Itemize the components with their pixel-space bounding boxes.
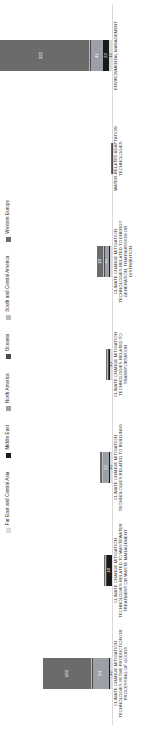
category-label: CLIMATE CHANGE MITIGATION TECHNOLOGIES R… (114, 213, 134, 310)
bar-segment[interactable]: 4 (91, 658, 92, 689)
rotated-canvas: Far East and Central AsiaMiddle EastNort… (0, 0, 159, 733)
bar-segment[interactable]: 3 (108, 349, 109, 380)
bar-value-label: 22 (104, 53, 108, 58)
legend-item[interactable]: South and Central America (6, 256, 11, 320)
category-label: CLIMATE CHANGE MITIGATION TECHNOLOGIES R… (114, 522, 129, 619)
category-axis: CLIMATE CHANGE MITIGATION TECHNOLOGIES I… (113, 4, 159, 725)
bar-segment[interactable]: 54 (93, 658, 109, 689)
legend-item-label: Western Europe (6, 200, 11, 234)
bar-segment[interactable]: 16 (104, 246, 109, 277)
bar-segment[interactable]: 18 (97, 246, 102, 277)
legend-item-label: Far East and Central Asia (6, 472, 11, 526)
bar-segment[interactable]: 18 (107, 555, 112, 586)
bar-segment[interactable]: 3 (90, 40, 91, 71)
bar-value-label: 22 (104, 465, 108, 470)
bar-value-label: 16 (104, 259, 108, 264)
bar-segment[interactable]: 322 (0, 40, 89, 71)
bar-segment[interactable]: 4 (106, 349, 107, 380)
bar-segment[interactable]: 7 (100, 452, 102, 483)
bar-segment[interactable]: 2 (92, 658, 93, 689)
legend-item-label: South and Central America (6, 256, 11, 312)
bar-segment[interactable]: 4 (109, 246, 110, 277)
category-label: CLIMATE CHANGE MITIGATION TECHNOLOGIES I… (114, 625, 129, 722)
bar-segment[interactable]: 3 (106, 555, 107, 586)
legend-swatch-icon (6, 354, 11, 359)
bar-segment[interactable]: 22 (103, 40, 109, 71)
legend-swatch-icon (6, 453, 11, 458)
bar-group[interactable]: 12224135322 (0, 40, 113, 71)
bar-segment[interactable]: 3 (109, 658, 110, 689)
legend-item-label: Middle East (6, 425, 11, 450)
bar-segment[interactable]: 2 (104, 246, 105, 277)
legend-item[interactable]: North America (6, 373, 11, 411)
bar-group[interactable]: 104162318 (97, 246, 113, 277)
stacked-bar-chart: Far East and Central AsiaMiddle EastNort… (0, 0, 159, 733)
chart-legend: Far East and Central AsiaMiddle EastNort… (2, 0, 14, 733)
bar-segment[interactable]: 162 (43, 658, 91, 689)
legend-item[interactable]: Western Europe (6, 200, 11, 242)
bar-group[interactable]: 10222227 (100, 452, 113, 483)
category-label: ENVIRONMENTAL MANAGEMENT (114, 7, 119, 104)
bars-container: 1235424162318311610222227131311410416231… (16, 4, 113, 725)
legend-item[interactable]: Oceania (6, 334, 11, 359)
bar-value-label: 41 (95, 53, 99, 58)
bar-segment[interactable]: 2 (109, 452, 110, 483)
bar-value-label: 322 (39, 52, 43, 59)
bar-value-label: 18 (107, 568, 111, 573)
category-label: CLIMATE CHANGE MITIGATION TECHNOLOGIES R… (114, 316, 129, 413)
bar-segment[interactable]: 2 (102, 452, 103, 483)
category-label: CLIMATE CHANGE MITIGATION TECHNOLOGIES R… (114, 419, 124, 516)
category-label: WATER-RELATED ADAPTATION TECHNOLOGIES (114, 110, 124, 207)
bar-value-label: 54 (98, 671, 102, 676)
bar-segment[interactable]: 41 (91, 40, 103, 71)
legend-swatch-icon (6, 315, 11, 320)
legend-item[interactable]: Far East and Central Asia (6, 472, 11, 534)
bar-segment[interactable]: 6 (104, 555, 106, 586)
bar-segment[interactable]: 5 (89, 40, 90, 71)
bar-value-label: 18 (98, 259, 102, 264)
legend-item-label: North America (6, 373, 11, 403)
bar-segment[interactable]: 3 (103, 246, 104, 277)
bar-group[interactable]: 1235424162 (43, 658, 113, 689)
legend-swatch-icon (6, 237, 11, 242)
plot-area: 1235424162318311610222227131311410416231… (16, 4, 113, 725)
bar-segment[interactable]: 22 (103, 452, 109, 483)
legend-swatch-icon (6, 528, 11, 533)
bar-value-label: 162 (65, 670, 69, 677)
legend-item-label: Oceania (6, 334, 11, 351)
bar-group[interactable]: 1313114 (106, 349, 113, 380)
legend-swatch-icon (6, 406, 11, 411)
legend-item[interactable]: Middle East (6, 425, 11, 458)
bar-segment[interactable]: 2 (102, 452, 103, 483)
bar-group[interactable]: 3183116 (104, 555, 113, 586)
